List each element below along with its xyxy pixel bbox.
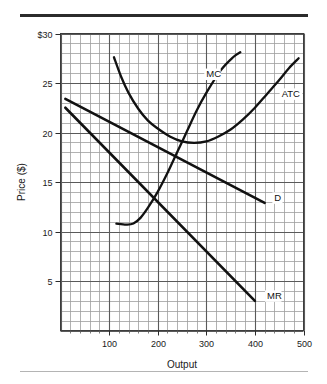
y-axis-title: Price ($) [16,163,27,201]
y-tick-label: 25 [42,79,52,89]
data-curves [65,52,298,300]
chart-svg: 510152025$30 100200300400500 MCATCDMR Ou… [0,0,327,384]
x-tick-label: 400 [248,339,263,349]
grid-major-lines [61,34,305,332]
y-tick-label: 5 [47,277,52,287]
y-tick-label: 15 [42,178,52,188]
curve-mc [116,52,240,224]
x-axis-title: Output [167,359,197,370]
x-tick-label: 200 [151,339,166,349]
curve-label-mr: MR [267,290,282,301]
y-tick-label: $30 [37,30,52,40]
x-axis-tick-labels: 100200300400500 [102,339,312,349]
x-tick-label: 500 [297,339,312,349]
x-tick-label: 300 [199,339,214,349]
y-axis-tick-labels: 510152025$30 [37,30,52,287]
y-tick-label: 20 [42,129,52,139]
curve-label-mc: MC [206,68,221,79]
curve-d [65,99,264,203]
x-tick-label: 100 [102,339,117,349]
curve-label-d: D [274,192,281,203]
plot-area-wrapper: 510152025$30 100200300400500 MCATCDMR Ou… [0,0,327,384]
y-axis-ticks [56,35,61,282]
chart-figure: 510152025$30 100200300400500 MCATCDMR Ou… [0,0,327,384]
curve-label-atc: ATC [282,88,300,99]
y-tick-label: 10 [42,228,52,238]
